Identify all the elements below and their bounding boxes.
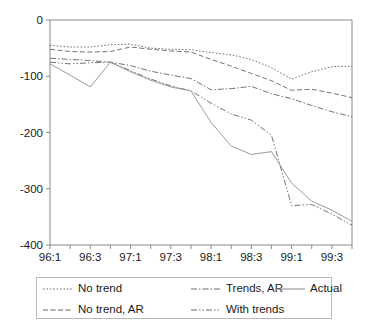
legend-item[interactable]: Actual xyxy=(275,283,342,295)
y-tick-label: -200 xyxy=(20,127,43,139)
x-tick-label: 96:3 xyxy=(79,251,101,263)
x-tick-label: 97:3 xyxy=(160,251,182,263)
y-tick-label: -400 xyxy=(20,239,43,251)
y-tick-label: -100 xyxy=(20,70,43,82)
legend-item[interactable]: Trends, AR xyxy=(191,283,283,295)
series-line xyxy=(50,62,352,225)
legend-row: No trend, ARWith trends xyxy=(37,299,331,320)
legend-line-sample xyxy=(43,284,73,294)
legend-line-sample xyxy=(43,305,73,315)
series-line xyxy=(50,47,352,98)
legend-item[interactable]: No trend, AR xyxy=(43,304,144,316)
legend-line-sample xyxy=(275,284,305,294)
legend-label: No trend, AR xyxy=(78,304,144,316)
series-line xyxy=(50,62,352,221)
chart-series-layer xyxy=(50,44,352,225)
x-tick-label: 98:1 xyxy=(200,251,222,263)
chart-legend: No trendTrends, ARActualNo trend, ARWith… xyxy=(36,277,332,319)
x-tick-label: 99:3 xyxy=(321,251,343,263)
x-tick-label: 98:3 xyxy=(240,251,262,263)
y-tick-label: -300 xyxy=(20,183,43,195)
legend-label: No trend xyxy=(78,283,122,295)
legend-line-sample xyxy=(191,305,221,315)
legend-item[interactable]: No trend xyxy=(43,283,122,295)
legend-item[interactable]: With trends xyxy=(191,304,284,316)
legend-line-sample xyxy=(191,284,221,294)
series-line xyxy=(50,44,352,79)
x-tick-label: 96:1 xyxy=(39,251,61,263)
x-tick-label: 99:1 xyxy=(280,251,302,263)
y-tick-label: 0 xyxy=(37,14,43,26)
legend-label: With trends xyxy=(226,304,284,316)
legend-row: No trendTrends, ARActual xyxy=(37,278,331,299)
chart-figure: 0-100-200-300-40096:196:397:197:398:198:… xyxy=(0,0,368,329)
legend-label: Actual xyxy=(310,283,342,295)
series-line xyxy=(50,58,352,117)
chart-axes xyxy=(46,20,352,249)
x-tick-label: 97:1 xyxy=(119,251,141,263)
